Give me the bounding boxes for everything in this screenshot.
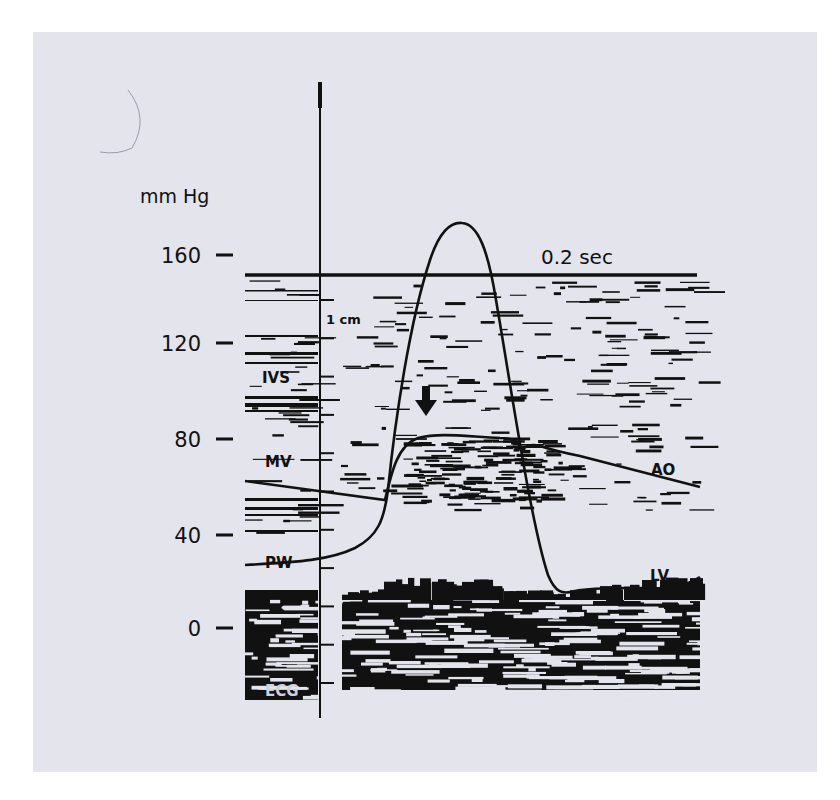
y-tick-label: 80 xyxy=(174,428,201,452)
distance-scale-label: 1 cm xyxy=(326,312,361,327)
pressure-echo-figure: mm Hg 16012080400 0.2 sec 1 cm IVS MV PW… xyxy=(0,0,840,800)
aortic-valve-arrow-icon xyxy=(415,386,437,416)
ecg-label: ECG xyxy=(265,682,299,700)
y-axis-ticks: 16012080400 xyxy=(161,244,233,641)
lv-curve-label: LV xyxy=(650,567,669,585)
mv-label: MV xyxy=(265,453,292,471)
y-tick-label: 120 xyxy=(161,332,201,356)
y-axis-unit: mm Hg xyxy=(140,185,209,207)
y-tick-label: 160 xyxy=(161,244,201,268)
ao-curve-label: AO xyxy=(651,461,675,479)
y-tick-label: 0 xyxy=(188,617,201,641)
y-tick-label: 40 xyxy=(174,524,201,548)
time-scale-label: 0.2 sec xyxy=(541,245,613,269)
scan-artifact xyxy=(100,90,140,153)
ivs-label: IVS xyxy=(262,369,290,387)
